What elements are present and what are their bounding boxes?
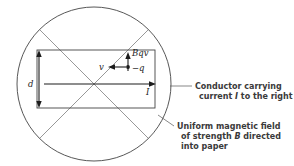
field-annotation-suffix: directed <box>241 132 282 141</box>
conductor-annotation-suffix: to the right <box>238 92 293 101</box>
conductor-rectangle <box>37 50 155 108</box>
force-arrow <box>125 52 130 71</box>
conductor-annotation-line1: Conductor carrying <box>195 82 282 91</box>
width-label: d <box>28 79 34 89</box>
field-annotation-line2: of strength B directed <box>181 132 281 141</box>
velocity-label: v <box>99 62 104 72</box>
velocity-arrow <box>108 64 126 70</box>
field-annotation-line3: into paper <box>181 142 228 151</box>
field-annotation-line1: Uniform magnetic field <box>177 122 281 131</box>
field-leader-line <box>158 115 174 126</box>
charge-label: −q <box>132 63 145 73</box>
conductor-annotation-line2: current I to the right <box>199 92 293 101</box>
force-label: Bqv <box>131 48 149 58</box>
magnetic-field-conductor-diagram: I d −q Bqv v Conductor carrying current … <box>0 0 294 166</box>
field-annotation-prefix: of strength <box>181 132 234 141</box>
current-arrow <box>44 81 156 87</box>
conductor-annotation-prefix: current <box>199 92 235 101</box>
current-label: I <box>145 87 150 97</box>
